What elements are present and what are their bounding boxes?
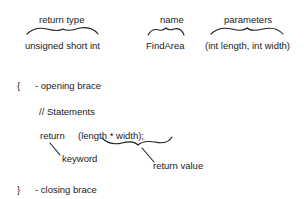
return-type-brace-icon: [27, 28, 98, 34]
return-value-pointer-line: [142, 148, 154, 162]
brace-connectors: [0, 0, 304, 199]
name-brace-icon: [148, 28, 184, 35]
parameters-brace-icon: [211, 28, 283, 34]
keyword-pointer-line: [50, 143, 60, 155]
return-value-brace-icon: [102, 137, 172, 145]
